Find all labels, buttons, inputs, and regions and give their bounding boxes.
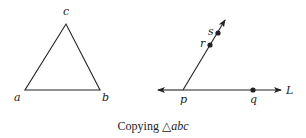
- triangle-abc: [25, 24, 100, 90]
- caption-prefix: Copying: [118, 119, 162, 133]
- label-L: L: [285, 84, 293, 97]
- label-p: p: [180, 93, 187, 106]
- point-r: [207, 42, 212, 47]
- label-a: a: [14, 91, 21, 104]
- label-r: r: [200, 37, 206, 50]
- label-c: c: [63, 5, 69, 18]
- caption-triangle-name: abc: [171, 119, 188, 133]
- triangle-symbol: △: [162, 119, 171, 133]
- point-s: [215, 30, 220, 35]
- label-s: s: [208, 25, 214, 38]
- label-b: b: [102, 91, 109, 104]
- figure-caption: Copying △abc: [0, 119, 306, 134]
- label-q: q: [250, 93, 257, 106]
- point-q: [250, 87, 255, 92]
- geometry-figure: c a b L p q r s: [0, 0, 306, 138]
